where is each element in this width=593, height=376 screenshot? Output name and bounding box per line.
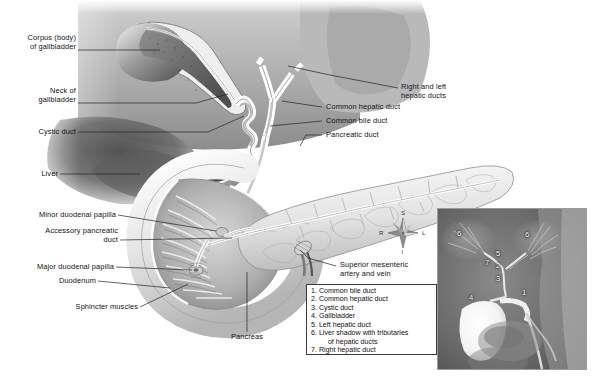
legend-item: 3. Cystic duct — [311, 304, 433, 312]
label-liver: Liver — [4, 170, 58, 179]
legend-item: 1. Common bile duct — [311, 287, 433, 295]
radiograph-marker: 2 — [496, 261, 500, 270]
legend-item: 5. Left hepatic duct — [311, 321, 433, 329]
legend-item: 6. Liver shadow with tributaries of hepa… — [311, 329, 433, 346]
label-minor-duodenal-papilla: Minor duodenal papilla — [2, 211, 116, 220]
label-pancreas: Pancreas — [218, 333, 276, 342]
radiograph-marker: 6 — [457, 229, 461, 238]
compass-label-inferior: I — [402, 248, 404, 255]
radiograph-marker: 1 — [522, 288, 526, 297]
label-common-hepatic-duct: Common hepatic duct — [326, 103, 436, 112]
legend-item: 2. Common hepatic duct — [311, 295, 433, 303]
label-right-and-left-hepatic-ducts: Right and left hepatic ducts — [401, 83, 497, 100]
legend-item: 7. Right hepatic duct — [311, 346, 433, 354]
radiograph-marker: 6 — [525, 230, 529, 239]
radiograph-marker: 3 — [496, 274, 500, 283]
label-corpus-of-gallbladder: Corpus (body) of gallbladder — [4, 34, 76, 51]
radiograph-marker: 7 — [485, 258, 489, 267]
label-common-bile-duct: Common bile duct — [326, 117, 430, 126]
legend-box: 1. Common bile duct 2. Common hepatic du… — [306, 284, 437, 355]
legend-list: 1. Common bile duct 2. Common hepatic du… — [311, 287, 433, 355]
compass-label-right: R — [379, 229, 383, 236]
label-major-duodenal-papilla: Major duodenal papilla — [2, 263, 114, 272]
orientation-compass: S I R L — [378, 209, 428, 257]
radiograph-marker: 4 — [469, 293, 473, 302]
cholangiogram-radiograph: 6 6 5 7 2 3 4 1 — [437, 208, 587, 370]
label-superior-mesenteric-artery-and-vein: Superior mesenteric artery and vein — [340, 261, 444, 278]
label-sphincter-muscles: Sphincter muscles — [2, 303, 138, 312]
label-accessory-pancreatic-duct: Accessory pancreatic duct — [2, 227, 118, 244]
anatomy-figure: Corpus (body) of gallbladder Neck of gal… — [0, 0, 593, 376]
label-cystic-duct: Cystic duct — [4, 128, 76, 137]
label-duodenum: Duodenum — [2, 277, 96, 286]
label-neck-of-gallbladder: Neck of gallbladder — [4, 87, 76, 104]
label-pancreatic-duct: Pancreatic duct — [326, 131, 420, 140]
radiograph-marker: 5 — [496, 249, 500, 258]
legend-item: 4. Gallbladder — [311, 312, 433, 320]
compass-label-left: L — [422, 229, 425, 236]
compass-label-superior: S — [401, 209, 405, 216]
